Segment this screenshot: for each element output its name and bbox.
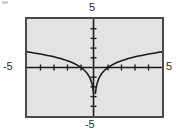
x-axis-max-label: 5 [166,61,172,72]
plot-canvas [27,19,162,116]
x-axis-min-label: -5 [3,61,12,72]
curve-branch-positive [95,52,162,93]
curve-branch-negative [27,52,94,93]
graph-screenshot: 5 -5 5 -5 [0,0,176,131]
corner-artifact [2,1,8,4]
y-axis-max-label: 5 [89,2,95,13]
calculator-plot-frame [25,17,164,118]
y-axis-min-label: -5 [85,119,94,130]
